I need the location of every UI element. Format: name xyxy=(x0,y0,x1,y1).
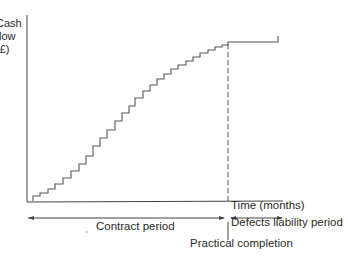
practical-completion-label: Practical completion xyxy=(190,237,293,249)
speck xyxy=(86,231,87,232)
contract-arrow-left-head xyxy=(28,216,34,220)
defects-liability-period-label: Defects liability period xyxy=(231,216,343,228)
x-axis-label: Time (months) xyxy=(231,199,305,211)
contract-arrow-right-head xyxy=(219,216,225,220)
contract-period-label: Contract period xyxy=(96,220,175,232)
cash-flow-curve xyxy=(33,36,278,201)
